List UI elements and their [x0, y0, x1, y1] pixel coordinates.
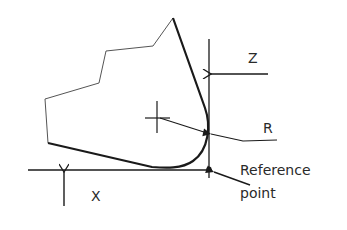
reference-point-dot [206, 166, 211, 171]
tool-body-outline [45, 18, 173, 143]
z-label: Z [248, 50, 258, 66]
radius-line [160, 118, 207, 133]
tool-cutting-edge [48, 18, 208, 168]
radius-label: R [263, 120, 273, 136]
reference-point-label-line2: point [240, 185, 276, 201]
reference-point-label-line1: Reference [240, 162, 311, 178]
x-label: X [91, 188, 101, 204]
nose-center-crosshair-icon [145, 101, 170, 133]
tool-nose-diagram: Z R Reference point X [0, 0, 347, 230]
